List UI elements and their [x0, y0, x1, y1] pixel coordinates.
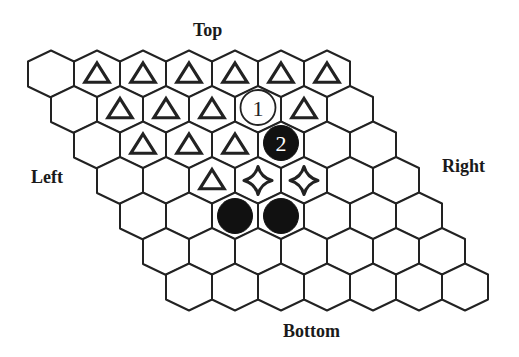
stone-move-number: 1 — [253, 96, 264, 121]
black-stone — [264, 199, 299, 234]
stone-move-number: 2 — [276, 131, 287, 156]
hex-board: 12 — [0, 0, 519, 357]
black-stone — [218, 199, 253, 234]
edge-label-top: Top — [193, 21, 222, 39]
hex-cell — [396, 264, 442, 311]
hex-cell — [442, 264, 488, 311]
hex-cell — [304, 264, 350, 311]
hex-cell — [166, 264, 212, 311]
edge-label-bottom: Bottom — [283, 322, 340, 340]
hex-cell — [350, 264, 396, 311]
hex-cell — [212, 264, 258, 311]
edge-label-left: Left — [31, 168, 63, 186]
edge-label-right: Right — [442, 157, 485, 175]
hex-cell — [258, 264, 304, 311]
